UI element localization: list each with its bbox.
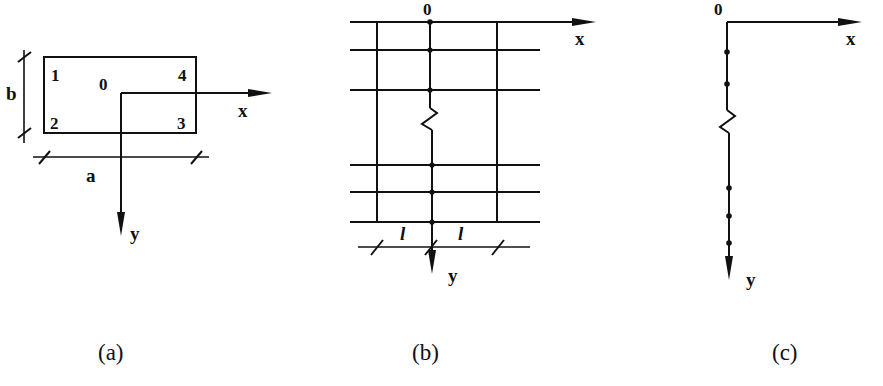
panel-a-y-axis-label: y [130, 223, 140, 244]
panel-b-group: 0 x y l l [350, 0, 596, 286]
panel-b-dimension-right-label: l [458, 223, 464, 244]
panel-caption-a: (a) [98, 340, 124, 365]
panel-a-node-label-4: 4 [178, 66, 187, 85]
panel-b-dimension-left-label: l [400, 223, 406, 244]
panel-a-y-axis [117, 93, 125, 236]
panel-c-group: 0 x y [714, 0, 862, 290]
panel-c-y-axis-label: y [746, 269, 756, 290]
panel-a-dimension-b-label: b [6, 83, 17, 104]
panel-a-group: 1 4 2 3 0 x y a b [6, 50, 272, 244]
panel-c-x-axis [727, 18, 862, 26]
technical-diagram-svg: 1 4 2 3 0 x y a b [0, 0, 883, 386]
panel-caption-c: (c) [772, 340, 798, 365]
panel-a-origin-label: 0 [99, 75, 108, 94]
panel-c-x-axis-label: x [846, 28, 856, 49]
panel-b-y-axis-label: y [448, 265, 458, 286]
panel-a-dimension-a-label: a [86, 165, 96, 186]
panel-b-y-axis [422, 22, 437, 274]
panel-a-node-label-3: 3 [177, 114, 186, 133]
panel-a-dimension-b [18, 50, 31, 143]
figure-root: 1 4 2 3 0 x y a b [0, 0, 883, 386]
panel-c-origin-label: 0 [714, 0, 723, 19]
panel-caption-b: (b) [412, 340, 439, 365]
panel-captions: (a) (b) (c) [98, 340, 798, 365]
panel-a-node-label-1: 1 [51, 66, 60, 85]
panel-b-horizontal-lines [350, 22, 560, 222]
panel-b-origin-label: 0 [423, 0, 432, 19]
panel-b-dimension-l [358, 240, 530, 255]
panel-a-x-axis-label: x [238, 100, 248, 121]
panel-b-x-axis [430, 18, 596, 26]
panel-b-x-axis-label: x [575, 28, 585, 49]
panel-a-node-label-2: 2 [50, 114, 59, 133]
